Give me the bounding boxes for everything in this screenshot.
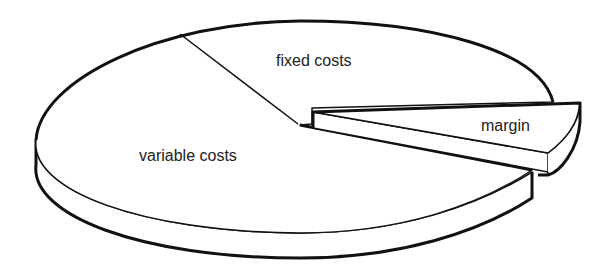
pie-chart — [0, 0, 608, 270]
label-fixed-costs: fixed costs — [276, 52, 352, 70]
label-margin: margin — [481, 117, 530, 135]
label-variable-costs: variable costs — [139, 147, 237, 165]
